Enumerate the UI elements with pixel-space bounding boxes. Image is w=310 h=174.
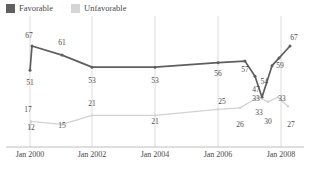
data-point-favorable[interactable]	[289, 45, 292, 48]
data-label-unfavorable: 15	[58, 121, 66, 130]
favorability-line-chart: Favorable Unfavorable 516761535356574733…	[0, 0, 310, 174]
data-point-favorable[interactable]	[154, 66, 157, 69]
data-label-favorable: 33	[255, 108, 263, 117]
plot-area: 5167615353565747335459671217152121252633…	[0, 16, 310, 148]
data-point-unfavorable[interactable]	[267, 101, 269, 103]
data-label-favorable: 61	[58, 38, 66, 47]
legend-entry-unfavorable[interactable]: Unfavorable	[71, 4, 126, 13]
data-label-favorable: 51	[26, 78, 34, 87]
data-point-favorable[interactable]	[31, 45, 34, 48]
data-label-unfavorable: 17	[24, 105, 32, 114]
x-tick-label-jan-2008: Jan 2008	[267, 150, 296, 160]
square-swatch-icon	[71, 4, 80, 13]
data-label-unfavorable: 21	[88, 99, 96, 108]
legend-entry-favorable[interactable]: Favorable	[6, 4, 53, 13]
x-tick-label-jan-2000: Jan 2000	[16, 150, 45, 160]
data-label-unfavorable: 12	[27, 123, 35, 132]
data-point-unfavorable[interactable]	[217, 108, 219, 110]
x-tick-label-jan-2006: Jan 2006	[204, 150, 233, 160]
data-point-favorable[interactable]	[29, 69, 32, 72]
plot-svg: 5167615353565747335459671217152121252633…	[0, 16, 310, 148]
data-label-unfavorable: 25	[218, 97, 226, 106]
data-point-unfavorable[interactable]	[287, 105, 289, 107]
x-tick-label-jan-2004: Jan 2004	[141, 150, 170, 160]
data-label-unfavorable: 21	[151, 117, 159, 126]
data-label-favorable: 67	[290, 33, 298, 42]
data-point-favorable[interactable]	[244, 60, 247, 63]
data-point-favorable[interactable]	[278, 57, 281, 60]
x-axis-labels: Jan 2000Jan 2002Jan 2004Jan 2006Jan 2008	[0, 150, 310, 164]
data-label-favorable: 47	[252, 85, 260, 94]
data-point-unfavorable[interactable]	[239, 107, 241, 109]
data-label-favorable: 57	[241, 65, 249, 74]
data-point-favorable[interactable]	[61, 54, 64, 57]
series-line-unfavorable	[30, 97, 288, 129]
data-label-favorable: 56	[214, 69, 222, 78]
data-point-favorable[interactable]	[271, 64, 274, 67]
legend-label-favorable: Favorable	[19, 4, 53, 13]
data-label-unfavorable: 27	[287, 120, 295, 129]
data-point-favorable[interactable]	[217, 61, 220, 64]
data-point-favorable[interactable]	[91, 66, 94, 69]
data-label-favorable: 53	[151, 76, 159, 85]
square-swatch-icon	[6, 4, 15, 13]
data-label-unfavorable: 33	[278, 94, 286, 103]
data-label-unfavorable: 30	[264, 117, 272, 126]
series-line-favorable	[30, 46, 290, 97]
data-label-unfavorable: 33	[252, 94, 260, 103]
data-label-favorable: 67	[25, 31, 33, 40]
data-label-favorable: 54	[261, 77, 269, 86]
legend-label-unfavorable: Unfavorable	[84, 4, 126, 13]
data-label-favorable: 59	[276, 61, 284, 70]
x-tick-label-jan-2002: Jan 2002	[78, 150, 107, 160]
data-point-favorable[interactable]	[254, 75, 257, 78]
chart-legend: Favorable Unfavorable	[6, 2, 126, 14]
data-point-unfavorable[interactable]	[91, 114, 93, 116]
data-label-favorable: 53	[88, 76, 96, 85]
data-label-unfavorable: 26	[236, 120, 244, 129]
